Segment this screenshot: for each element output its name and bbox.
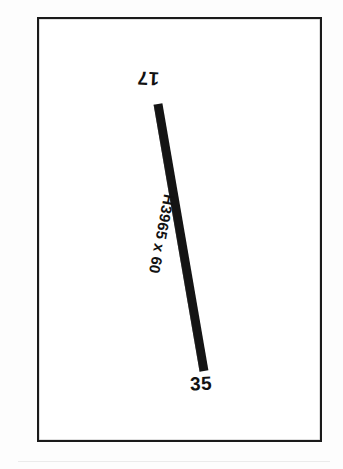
drawing-sheet: 17 H3965 x 60 35 bbox=[0, 0, 343, 469]
drawing-border-frame bbox=[37, 17, 322, 442]
node-label-bottom: 35 bbox=[190, 374, 213, 394]
node-label-top: 17 bbox=[137, 68, 160, 88]
scan-artifact-line bbox=[18, 461, 330, 462]
